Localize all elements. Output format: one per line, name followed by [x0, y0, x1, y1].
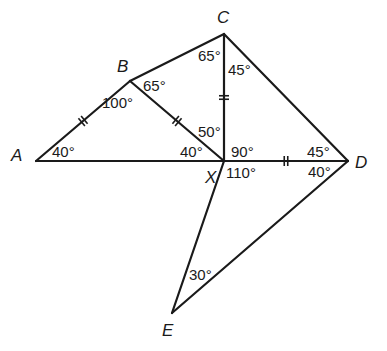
angle-labels: 40°100°65°65°45°50°40°90°110°45°40°30°	[52, 47, 331, 283]
geometry-diagram: ABCXDE 40°100°65°65°45°50°40°90°110°45°4…	[0, 0, 387, 351]
vertex-label-E: E	[162, 321, 174, 340]
angle-label-X-8: 110°	[226, 164, 256, 181]
vertex-label-C: C	[217, 8, 230, 27]
angle-label-A-0: 40°	[52, 143, 75, 160]
segment-AB	[36, 81, 130, 161]
vertex-label-D: D	[355, 153, 367, 172]
angle-label-X-7: 90°	[231, 143, 254, 160]
angle-label-B-2: 65°	[143, 77, 166, 94]
segment-CD	[224, 34, 348, 161]
vertex-label-B: B	[117, 57, 128, 76]
vertex-label-X: X	[204, 168, 217, 187]
angle-label-B-1: 100°	[102, 94, 133, 111]
angle-label-C-3: 65°	[198, 47, 221, 64]
angle-label-C-4: 45°	[228, 61, 251, 78]
angle-label-X-6: 40°	[180, 143, 203, 160]
angle-label-D-9: 45°	[307, 143, 330, 160]
angle-label-D-10: 40°	[308, 163, 331, 180]
vertex-label-A: A	[10, 146, 22, 165]
angle-label-E-11: 30°	[189, 266, 212, 283]
angle-label-X-5: 50°	[198, 123, 221, 140]
